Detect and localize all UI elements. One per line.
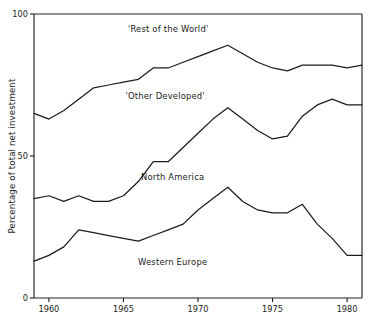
series-label-rest-of-the-world: 'Rest of the World' — [128, 24, 208, 34]
y-tick-label: 50 — [18, 151, 28, 161]
x-tick-label: 1960 — [38, 304, 59, 314]
x-tick-label: 1970 — [188, 304, 209, 314]
series-line-western-europe — [34, 187, 362, 261]
chart-container: Percentage of total net investment 05010… — [0, 0, 373, 327]
investment-share-line-chart: Percentage of total net investment 05010… — [0, 0, 373, 327]
series-lines — [34, 45, 362, 261]
series-label-north-america: North America — [141, 172, 204, 182]
y-tick-label: 0 — [23, 293, 28, 303]
series-label-western-europe: Western Europe — [138, 257, 207, 267]
x-tick-label: 1980 — [337, 304, 358, 314]
series-label-other-developed: 'Other Developed' — [125, 91, 204, 101]
y-axis-label: Percentage of total net investment — [7, 78, 17, 233]
x-axis-ticks: 19601965197019751980 — [38, 298, 357, 314]
y-tick-label: 100 — [12, 9, 28, 19]
series-line-north-america — [34, 99, 362, 201]
x-tick-label: 1975 — [262, 304, 283, 314]
x-tick-label: 1965 — [113, 304, 134, 314]
